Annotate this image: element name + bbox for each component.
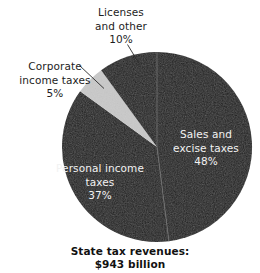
caption-title: State tax revenues: [0, 245, 260, 258]
slice-label-sales-and-excise-taxes: Sales and excise taxes 48% [160, 128, 252, 169]
slice-label-corporate-income-taxes: Corporate income taxes 5% [2, 60, 108, 101]
caption-total: $943 billion [0, 258, 260, 271]
slice-label-personal-income-taxes: Personal income taxes 37% [48, 162, 152, 203]
pie-chart-figure: Licenses and other 10% Corporate income … [0, 0, 260, 273]
slice-label-licenses-and-other: Licenses and other 10% [66, 6, 176, 47]
chart-caption: State tax revenues: $943 billion [0, 245, 260, 271]
